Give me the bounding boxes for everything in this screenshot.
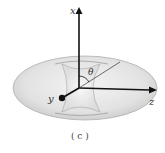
- dipole-diagram: x z y θ ( c ): [0, 0, 165, 153]
- theta-label: θ: [88, 67, 94, 77]
- y-axis-label: y: [47, 93, 54, 104]
- z-axis-label: z: [148, 96, 155, 107]
- figure-caption: ( c ): [71, 131, 89, 141]
- x-axis-label: x: [70, 5, 76, 16]
- y-axis-dot: [59, 95, 65, 101]
- x-axis-arrowhead: [76, 7, 83, 14]
